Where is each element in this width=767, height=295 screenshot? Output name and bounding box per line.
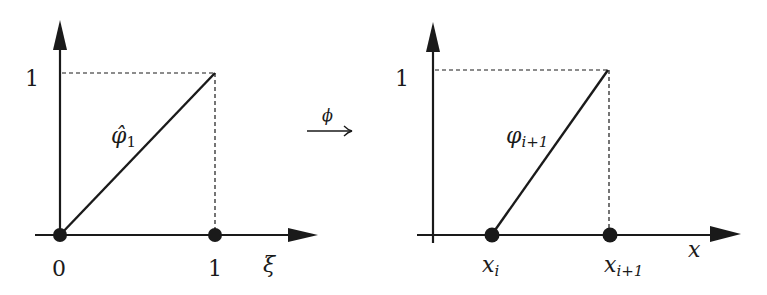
y-tick-label-left: 1 xyxy=(25,66,39,91)
basis-function-line-right xyxy=(493,70,608,233)
x-tick-label-xi: xi xyxy=(482,252,499,280)
node-dot-0 xyxy=(53,228,67,242)
reference-basis-function-label: φ̂1 xyxy=(111,123,136,151)
basis-function-mapping-diagram: 1 0 1 ξ φ̂1 ϕ 1 x xi xi+1 xyxy=(0,0,767,295)
phi-symbol: φ xyxy=(506,123,522,148)
x-tick-label-xi-plus-1: xi+1 xyxy=(604,252,643,280)
x-axis-label-xi: ξ xyxy=(263,252,277,277)
x-axis-arrowhead-left xyxy=(288,228,318,242)
phi-hat-subscript: 1 xyxy=(126,133,136,151)
phi-subscript: i+1 xyxy=(521,133,548,151)
x-axis-label-x: x xyxy=(688,237,701,262)
reference-element-plot: 1 0 1 ξ φ̂1 xyxy=(25,20,318,281)
xi-plus-1-base: x xyxy=(604,252,617,277)
mapping-label-phi: ϕ xyxy=(322,106,333,125)
physical-basis-function-label: φi+1 xyxy=(506,123,548,151)
mapping-arrow: ϕ xyxy=(307,106,352,136)
xi-base: x xyxy=(482,252,495,277)
y-axis-arrowhead-right xyxy=(426,22,440,52)
x-tick-label-0: 0 xyxy=(52,256,66,281)
basis-function-line-left xyxy=(60,73,215,235)
y-tick-label-right: 1 xyxy=(395,66,409,91)
xi-plus-1-subscript: i+1 xyxy=(616,262,643,280)
node-dot-xi xyxy=(485,228,500,243)
node-dot-1 xyxy=(208,228,222,242)
x-axis-arrowhead-right xyxy=(710,226,741,242)
y-axis-arrowhead-left xyxy=(53,20,67,50)
physical-element-plot: 1 x xi xi+1 φi+1 xyxy=(395,22,741,280)
phi-hat-symbol: φ̂ xyxy=(111,123,127,148)
x-tick-label-1: 1 xyxy=(208,256,222,281)
xi-subscript: i xyxy=(494,262,499,280)
node-dot-xi-plus-1 xyxy=(603,228,618,243)
